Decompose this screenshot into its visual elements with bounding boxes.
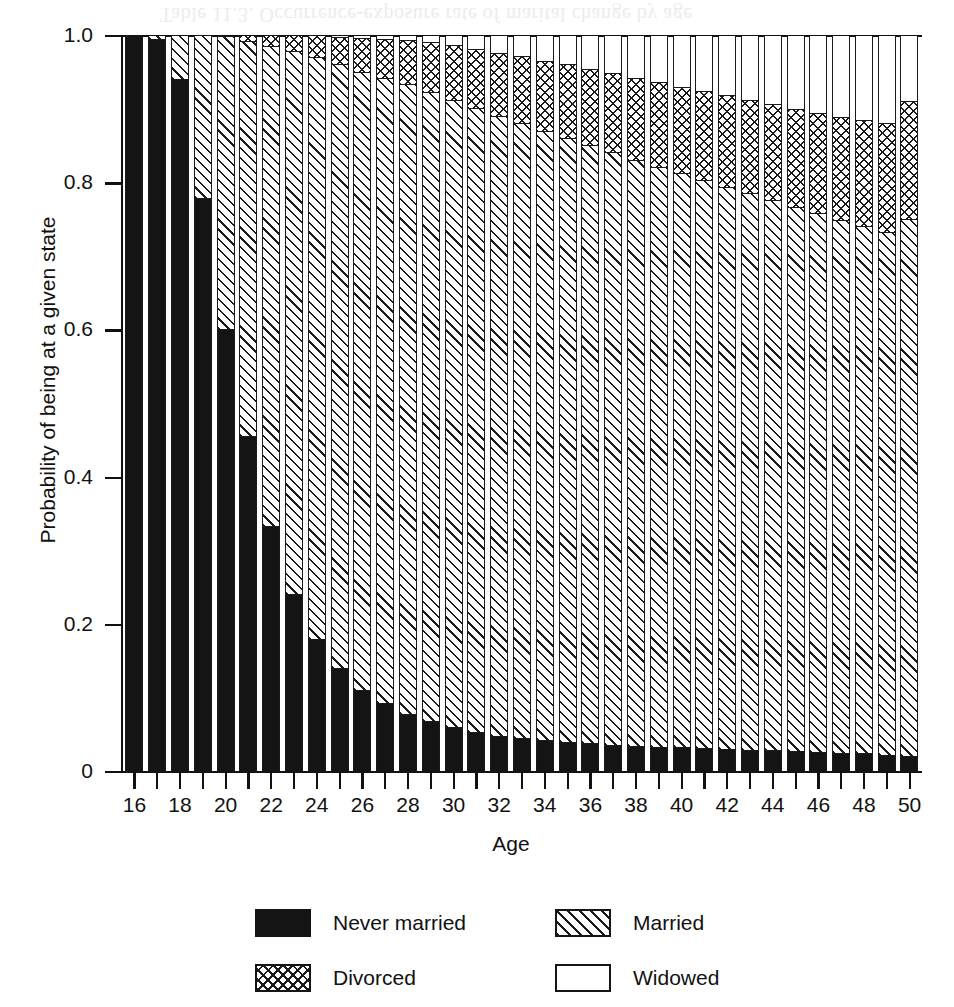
stacked-bar[interactable] xyxy=(718,36,736,772)
bar-segment-married xyxy=(446,101,462,728)
stacked-bar[interactable] xyxy=(285,36,303,772)
bar-segment-divorced xyxy=(901,102,917,220)
stacked-bar[interactable] xyxy=(764,36,782,772)
legend-item-never-married[interactable]: Never married xyxy=(255,895,475,950)
stacked-bar[interactable] xyxy=(627,36,645,772)
stacked-bar[interactable] xyxy=(513,36,531,772)
x-axis-label-text: Age xyxy=(492,832,529,855)
x-tick-label-32: 32 xyxy=(488,793,511,817)
y-tick-label: 0 xyxy=(81,759,93,783)
stacked-bar[interactable] xyxy=(148,36,166,772)
bar-slot-age-34 xyxy=(533,36,556,772)
x-tick-mark-46 xyxy=(817,773,819,789)
bar-segment-married xyxy=(149,36,165,40)
x-tick-mark-37 xyxy=(612,773,614,789)
bar-segment-divorced xyxy=(468,50,484,109)
bar-segment-never-married xyxy=(856,754,872,772)
bar-segment-divorced xyxy=(537,62,553,133)
legend-item-divorced[interactable]: Divorced xyxy=(255,950,475,1005)
x-tick-mark-45 xyxy=(795,773,797,789)
stacked-bar[interactable] xyxy=(832,36,850,772)
stacked-bar[interactable] xyxy=(125,36,143,772)
bar-segment-divorced xyxy=(582,70,598,147)
stacked-bar[interactable] xyxy=(695,36,713,772)
stacked-bar[interactable] xyxy=(536,36,554,772)
stacked-bar[interactable] xyxy=(331,36,349,772)
stacked-bar[interactable] xyxy=(376,36,394,772)
bar-segment-divorced xyxy=(856,121,872,227)
stacked-bar[interactable] xyxy=(559,36,577,772)
legend-swatch-icon xyxy=(555,909,611,937)
bar-slot-age-16 xyxy=(123,36,146,772)
stacked-bar[interactable] xyxy=(217,36,235,772)
bar-segment-divorced xyxy=(263,36,279,47)
stacked-bar[interactable] xyxy=(262,36,280,772)
stacked-bar[interactable] xyxy=(399,36,417,772)
bar-segment-never-married xyxy=(468,733,484,772)
bar-segment-never-married xyxy=(446,728,462,772)
stacked-bar[interactable] xyxy=(741,36,759,772)
stacked-bar[interactable] xyxy=(855,36,873,772)
stacked-bar[interactable] xyxy=(878,36,896,772)
bar-segment-divorced xyxy=(696,92,712,181)
stacked-bar[interactable] xyxy=(239,36,257,772)
bar-segment-divorced xyxy=(719,96,735,187)
x-tick-mark-21 xyxy=(247,773,249,789)
x-tick-label-50: 50 xyxy=(898,793,921,817)
y-tick-label: 0.4 xyxy=(64,465,93,489)
x-tick-label-42: 42 xyxy=(716,793,739,817)
bar-segment-married xyxy=(879,233,895,756)
stacked-bar[interactable] xyxy=(650,36,668,772)
y-tick-mark xyxy=(105,771,121,773)
legend-label: Never married xyxy=(333,911,466,935)
bar-segment-married xyxy=(719,188,735,750)
bar-segment-married xyxy=(628,161,644,747)
x-tick-mark-22 xyxy=(270,773,272,789)
x-tick-mark-34 xyxy=(544,773,546,789)
bar-segment-never-married xyxy=(560,743,576,772)
bar-segment-widowed xyxy=(468,36,484,50)
bar-segment-married xyxy=(263,47,279,527)
bar-slot-age-39 xyxy=(647,36,670,772)
bar-segment-married xyxy=(901,220,917,757)
bar-slot-age-19 xyxy=(191,36,214,772)
bar-slot-age-18 xyxy=(169,36,192,772)
stacked-bar[interactable] xyxy=(171,36,189,772)
y-tick-label: 0.2 xyxy=(64,612,93,636)
bar-segment-widowed xyxy=(742,36,758,101)
bar-slot-age-42 xyxy=(716,36,739,772)
stacked-bar[interactable] xyxy=(787,36,805,772)
y-tick-mark xyxy=(105,35,121,37)
x-tick-mark-49 xyxy=(886,773,888,789)
stacked-bar[interactable] xyxy=(422,36,440,772)
bar-segment-widowed xyxy=(582,36,598,70)
stacked-bar[interactable] xyxy=(490,36,508,772)
legend-item-married[interactable]: Married xyxy=(555,895,775,950)
bar-segment-divorced xyxy=(491,54,507,117)
bar-segment-never-married xyxy=(651,748,667,772)
stacked-bar[interactable] xyxy=(604,36,622,772)
stacked-bar[interactable] xyxy=(194,36,212,772)
y-tick-label: 0.8 xyxy=(64,170,93,194)
stacked-bar[interactable] xyxy=(900,36,918,772)
bar-segment-divorced xyxy=(218,36,234,37)
legend-label: Divorced xyxy=(333,966,416,990)
bar-segment-married xyxy=(354,73,370,691)
stacked-bar[interactable] xyxy=(308,36,326,772)
bar-segment-divorced xyxy=(628,79,644,161)
bar-slot-age-28 xyxy=(397,36,420,772)
bar-segment-never-married xyxy=(605,746,621,772)
bar-slot-age-31 xyxy=(465,36,488,772)
stacked-bar[interactable] xyxy=(673,36,691,772)
stacked-bar[interactable] xyxy=(445,36,463,772)
bar-segment-widowed xyxy=(400,36,416,41)
bar-segment-widowed xyxy=(765,36,781,105)
stacked-bar[interactable] xyxy=(467,36,485,772)
stacked-bar[interactable] xyxy=(809,36,827,772)
stacked-bar[interactable] xyxy=(581,36,599,772)
bar-segment-divorced xyxy=(742,101,758,194)
bar-slot-age-24 xyxy=(305,36,328,772)
stacked-bar[interactable] xyxy=(353,36,371,772)
legend-item-widowed[interactable]: Widowed xyxy=(555,950,775,1005)
bar-segment-married xyxy=(788,208,804,753)
